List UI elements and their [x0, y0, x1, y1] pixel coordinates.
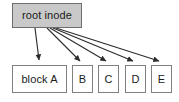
node-root-inode[interactable]: root inode — [12, 3, 82, 28]
node-block-e[interactable]: E — [151, 65, 172, 93]
edge-root-to-block-c — [50, 28, 106, 61]
node-block-b[interactable]: B — [72, 65, 93, 93]
edge-root-to-block-b — [47, 28, 80, 61]
inode-block-diagram: root inode block A B C D E — [0, 0, 179, 102]
node-block-c[interactable]: C — [98, 65, 119, 93]
node-root-inode-label: root inode — [22, 10, 72, 21]
node-block-a-label: block A — [21, 74, 57, 85]
node-block-d-label: D — [131, 74, 139, 85]
edge-root-to-block-d — [53, 28, 133, 61]
edge-root-to-block-e — [56, 28, 159, 61]
node-block-a[interactable]: block A — [12, 65, 67, 93]
node-block-c-label: C — [104, 74, 112, 85]
node-block-d[interactable]: D — [125, 65, 146, 93]
node-block-b-label: B — [79, 74, 86, 85]
edge-root-to-block-a — [35, 28, 39, 60]
node-block-e-label: E — [158, 74, 165, 85]
